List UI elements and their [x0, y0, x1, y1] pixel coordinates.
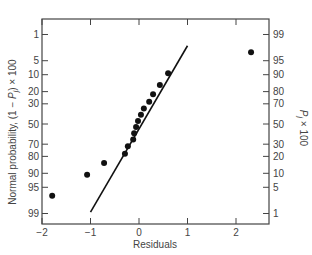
- y-right-tick-label: 1: [273, 208, 279, 219]
- y-left-tick-label: 95: [28, 182, 40, 193]
- x-tick-label: 2: [233, 227, 239, 238]
- right-axis-title: Pj × 100: [296, 110, 309, 147]
- data-point: [165, 70, 171, 76]
- reference-line-segment: [91, 46, 188, 212]
- y-right-tick-label: 50: [273, 119, 285, 130]
- right-axis-ticks: 99959080705030201051: [263, 29, 285, 219]
- data-point: [125, 143, 131, 149]
- data-point: [157, 82, 163, 88]
- data-point: [141, 106, 147, 112]
- y-right-tick-label: 30: [273, 139, 285, 150]
- data-point: [130, 136, 136, 142]
- data-point: [49, 193, 55, 199]
- data-point: [84, 172, 90, 178]
- top-axis-ticks: [42, 19, 236, 25]
- y-left-tick-label: 70: [28, 139, 40, 150]
- left-axis-ticks: 15102030507080909599: [28, 29, 48, 219]
- y-right-tick-label: 20: [273, 151, 285, 162]
- data-point: [248, 49, 254, 55]
- x-tick-label: 1: [185, 227, 191, 238]
- data-point: [150, 91, 156, 97]
- y-right-tick-label: 80: [273, 86, 285, 97]
- y-right-tick-label: 5: [273, 182, 279, 193]
- left-axis-title: Normal probability, (1 − Pj) × 100: [7, 59, 20, 205]
- y-left-tick-label: 90: [28, 168, 40, 179]
- y-right-tick-label: 95: [273, 55, 285, 66]
- data-point: [138, 112, 144, 118]
- plot-frame: [42, 19, 269, 224]
- x-tick-label: −2: [36, 227, 48, 238]
- data-point: [131, 130, 137, 136]
- data-point: [122, 151, 128, 157]
- x-axis-ticks: −2−1012: [36, 218, 239, 238]
- x-tick-label: 0: [136, 227, 142, 238]
- y-left-tick-label: 99: [28, 208, 40, 219]
- y-right-tick-label: 70: [273, 98, 285, 109]
- y-left-tick-label: 80: [28, 151, 40, 162]
- data-point: [135, 118, 141, 124]
- y-right-tick-label: 90: [273, 69, 285, 80]
- data-point: [101, 160, 107, 166]
- data-point: [133, 124, 139, 130]
- y-left-tick-label: 20: [28, 86, 40, 97]
- y-left-tick-label: 50: [28, 119, 40, 130]
- y-left-tick-label: 1: [33, 29, 39, 40]
- y-right-tick-label: 10: [273, 168, 285, 179]
- x-axis-title: Residuals: [133, 239, 177, 250]
- y-left-tick-label: 10: [28, 69, 40, 80]
- data-points: [49, 49, 254, 199]
- x-tick-label: −1: [85, 227, 97, 238]
- reference-line: [91, 46, 188, 212]
- y-left-tick-label: 30: [28, 98, 40, 109]
- y-right-tick-label: 99: [273, 29, 285, 40]
- y-left-tick-label: 5: [33, 55, 39, 66]
- normal-probability-plot: −2−1012 15102030507080909599 99959080705…: [0, 0, 312, 255]
- data-point: [146, 99, 152, 105]
